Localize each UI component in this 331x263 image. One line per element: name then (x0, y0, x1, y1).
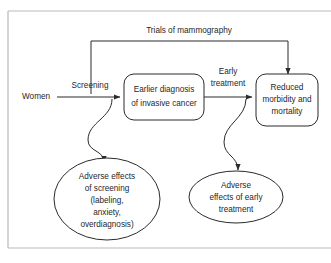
screening-label: Screening (72, 81, 109, 90)
node-adverse-screening: Adverse effects of screening (labeling, … (54, 158, 160, 240)
adverse-treatment-connector (224, 99, 246, 170)
node-adverse-treatment-line2: effects of early (209, 193, 263, 202)
node-earlier-diagnosis-line1: Earlier diagnosis (134, 85, 195, 94)
node-women: Women (22, 92, 51, 101)
trials-bracket-label: Trials of mammography (146, 26, 233, 35)
node-adverse-screening-line4: anxiety, (93, 208, 121, 217)
node-earlier-diagnosis: Earlier diagnosis of invasive cancer (124, 74, 204, 120)
node-earlier-diagnosis-line2: of invasive cancer (131, 99, 197, 108)
node-adverse-treatment: Adverse effects of early treatment (189, 171, 283, 223)
node-adverse-screening-line3: (labeling, (90, 196, 123, 205)
mammography-flowchart: Trials of mammography Women Screening Ea… (0, 0, 331, 263)
node-adverse-treatment-line1: Adverse (221, 181, 251, 190)
node-adverse-screening-line2: of screening (85, 184, 130, 193)
node-adverse-screening-line1: Adverse effects (79, 172, 135, 181)
early-treatment-label-line2: treatment (211, 79, 246, 88)
diagram-canvas: Trials of mammography Women Screening Ea… (0, 0, 331, 263)
adverse-screening-connector (88, 99, 112, 162)
node-reduced-morbidity-line1: Reduced (271, 83, 304, 92)
node-adverse-screening-line5: overdiagnosis) (80, 220, 134, 229)
node-reduced-morbidity-line2: morbidity and (262, 95, 312, 104)
node-adverse-treatment-line3: treatment (219, 205, 254, 214)
early-treatment-label-line1: Early (219, 67, 239, 76)
node-reduced-morbidity-line3: mortality (272, 107, 304, 116)
node-reduced-morbidity: Reduced morbidity and mortality (256, 74, 318, 126)
